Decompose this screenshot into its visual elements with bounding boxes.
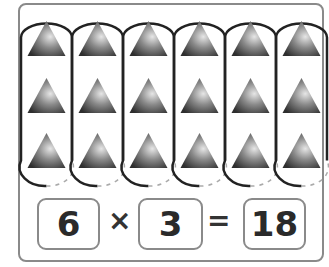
group-oval (173, 21, 227, 186)
product-value: 18 (251, 204, 298, 244)
factor-per-group-value: 3 (159, 204, 183, 244)
factor-groups-value: 6 (57, 204, 81, 244)
equals-sign: = (207, 204, 227, 237)
triangle-item (181, 133, 219, 168)
group-oval (71, 21, 125, 186)
triangle-item (283, 78, 321, 113)
triangle-item (130, 133, 168, 168)
factor-box-groups: 6 (37, 198, 100, 250)
triangle-item (283, 133, 321, 168)
group-oval (122, 21, 176, 186)
group-oval (275, 21, 329, 186)
group-oval (224, 21, 278, 186)
triangle-item (181, 78, 219, 113)
triangle-item (79, 133, 117, 168)
group-oval (20, 21, 74, 186)
triangle-item (130, 78, 168, 113)
product-box: 18 (243, 198, 306, 250)
group-array (0, 0, 329, 200)
triangle-item (232, 78, 270, 113)
triangle-item (28, 78, 66, 113)
triangle-item (232, 133, 270, 168)
factor-box-per-group: 3 (138, 198, 203, 250)
triangle-item (79, 78, 117, 113)
times-sign: × (108, 204, 128, 237)
triangle-item (28, 133, 66, 168)
